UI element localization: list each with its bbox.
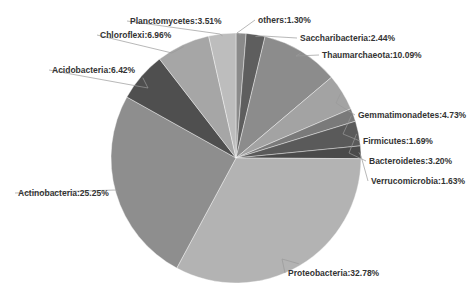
label-bacteroidetes: Bacteroidetes:3.20% bbox=[369, 156, 453, 166]
label-firmicutes: Firmicutes:1.69% bbox=[363, 136, 433, 146]
label-saccharibacteria: Saccharibacteria:2.44% bbox=[300, 33, 395, 43]
label-gemmatimonadetes: Gemmatimonadetes:4.73% bbox=[358, 110, 467, 120]
label-actinobacteria: Actinobacteria:25.25% bbox=[18, 188, 109, 198]
label-chloroflexi: Chloroflexi:6.96% bbox=[100, 30, 172, 40]
pie-chart: others:1.30%Saccharibacteria:2.44%Thauma… bbox=[0, 0, 467, 298]
leader-line bbox=[237, 20, 255, 35]
label-proteobacteria: Proteobacteria:32.78% bbox=[288, 268, 380, 278]
label-planctomycetes: Planctomycetes:3.51% bbox=[130, 16, 222, 26]
label-thaumarchaeota: Thaumarchaeota:10.09% bbox=[322, 50, 422, 60]
label-verrucomicrobia: Verrucomicrobia:1.63% bbox=[371, 176, 465, 186]
pie-slices bbox=[111, 33, 361, 283]
label-others: others:1.30% bbox=[258, 15, 311, 25]
label-acidobacteria: Acidobacteria:6.42% bbox=[52, 65, 136, 75]
